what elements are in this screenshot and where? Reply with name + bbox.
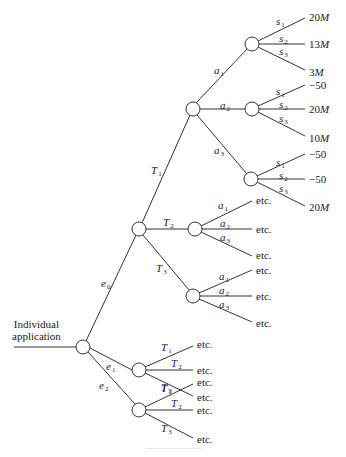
outcome-a3-s1: −50 bbox=[309, 149, 326, 160]
outcome-a2-s3: 10M bbox=[309, 133, 329, 144]
outcome-t3-a3: etc. bbox=[256, 318, 272, 329]
a1-node bbox=[245, 37, 259, 51]
t2-node bbox=[188, 222, 202, 236]
outcome-t3-a1: etc. bbox=[256, 265, 272, 276]
outcome-e1-t3: etc. bbox=[197, 392, 213, 403]
t1-node bbox=[186, 102, 200, 116]
label-a3-s3: s3 bbox=[279, 183, 288, 198]
outcome-e2-t2: etc. bbox=[197, 405, 213, 416]
e1-node bbox=[132, 363, 146, 377]
outcome-t2-a2: etc. bbox=[256, 224, 272, 235]
edge-e0 bbox=[86, 235, 136, 341]
label-e1-t2: T2 bbox=[171, 358, 182, 373]
outcome-a1-s3: 3M bbox=[309, 67, 324, 78]
label-t1: T1 bbox=[151, 165, 162, 180]
label-e1: e1 bbox=[106, 361, 115, 376]
outcome-t2-a3: etc. bbox=[256, 250, 272, 261]
outcome-t3-a2: etc. bbox=[256, 291, 272, 302]
root-label-line-2: application bbox=[12, 330, 61, 342]
outcome-t2-a1: etc. bbox=[256, 195, 272, 206]
label-e2-t3: T3 bbox=[161, 423, 172, 438]
a2-node bbox=[245, 102, 259, 116]
root-label: Individual application bbox=[12, 318, 61, 342]
e2-node bbox=[132, 403, 146, 417]
label-a2: a2 bbox=[220, 100, 230, 115]
e0-node bbox=[132, 222, 146, 236]
label-e0: e0 bbox=[101, 278, 110, 293]
label-t3: T3 bbox=[156, 263, 167, 278]
label-a1-s3: s3 bbox=[279, 46, 288, 61]
edge-t1 bbox=[142, 115, 190, 223]
label-a1-s1: s1 bbox=[276, 16, 285, 31]
outcome-a1-s2: 13M bbox=[309, 39, 329, 50]
label-a1: a1 bbox=[214, 65, 224, 80]
root-label-line-1: Individual bbox=[12, 318, 61, 330]
label-t3-a3: a3 bbox=[219, 299, 229, 314]
label-t2-a1: a1 bbox=[218, 200, 228, 215]
outcome-a3-s3: 20M bbox=[309, 202, 329, 213]
t3-node bbox=[186, 289, 200, 303]
root-node bbox=[76, 340, 90, 354]
outcome-e1-t2: etc. bbox=[197, 365, 213, 376]
outcome-e1-t1: etc. bbox=[197, 339, 213, 350]
outcome-a2-s2: 20M bbox=[309, 104, 329, 115]
label-t2: T2 bbox=[163, 217, 174, 232]
outcome-a1-s1: 20M bbox=[309, 12, 329, 23]
label-e2-t2: T2 bbox=[171, 398, 182, 413]
label-t2-a3: a3 bbox=[220, 232, 230, 247]
outcome-a3-s2: −50 bbox=[309, 174, 326, 185]
a3-node bbox=[244, 172, 258, 186]
label-e2-t1: T1 bbox=[161, 383, 172, 398]
footer-rule bbox=[145, 448, 201, 449]
outcome-e2-t3: etc. bbox=[197, 434, 213, 445]
label-a3: a3 bbox=[214, 145, 224, 160]
outcome-e2-t1: etc. bbox=[197, 377, 213, 388]
outcome-a2-s1: −50 bbox=[309, 80, 326, 91]
edge-a3 bbox=[197, 115, 246, 173]
label-e2: e2 bbox=[99, 380, 108, 395]
label-a2-s3: s3 bbox=[279, 113, 288, 128]
label-e1-t1: T1 bbox=[161, 342, 172, 357]
